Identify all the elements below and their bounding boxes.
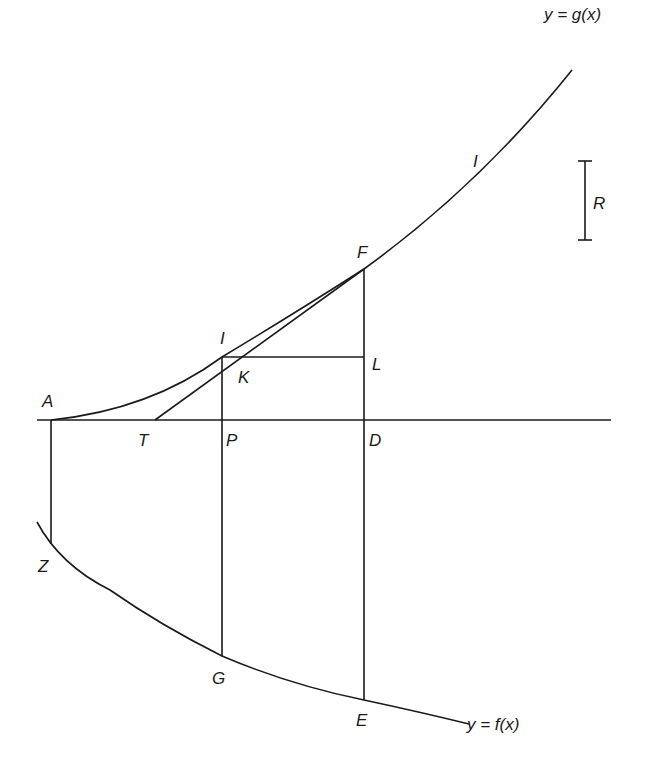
- point-G-label: G: [212, 669, 225, 688]
- tangent-line-TF: [155, 269, 364, 420]
- point-L-label: L: [372, 355, 381, 374]
- curve-g-label: y = g(x): [543, 5, 601, 24]
- point-F-label: F: [357, 243, 369, 262]
- scale-bar-label: R: [593, 194, 605, 213]
- point-Z-label: Z: [37, 557, 49, 576]
- point-T-label: T: [138, 431, 150, 450]
- curve-f: [37, 522, 469, 724]
- scale-bar-R: [578, 161, 592, 240]
- point-A-label: A: [41, 392, 53, 411]
- point-K-label: K: [238, 368, 250, 387]
- diagram-canvas: y = g(x) I y = f(x) R A T P D I K L F Z …: [0, 0, 650, 762]
- curve-f-label: y = f(x): [466, 715, 519, 734]
- curve-g-arc-label: I: [473, 152, 478, 171]
- point-I-label: I: [220, 329, 225, 348]
- curve-g: [51, 70, 572, 420]
- point-E-label: E: [356, 711, 368, 730]
- construction-figure: y = g(x) I y = f(x) R A T P D I K L F Z …: [0, 0, 650, 762]
- point-P-label: P: [226, 431, 238, 450]
- point-D-label: D: [369, 431, 381, 450]
